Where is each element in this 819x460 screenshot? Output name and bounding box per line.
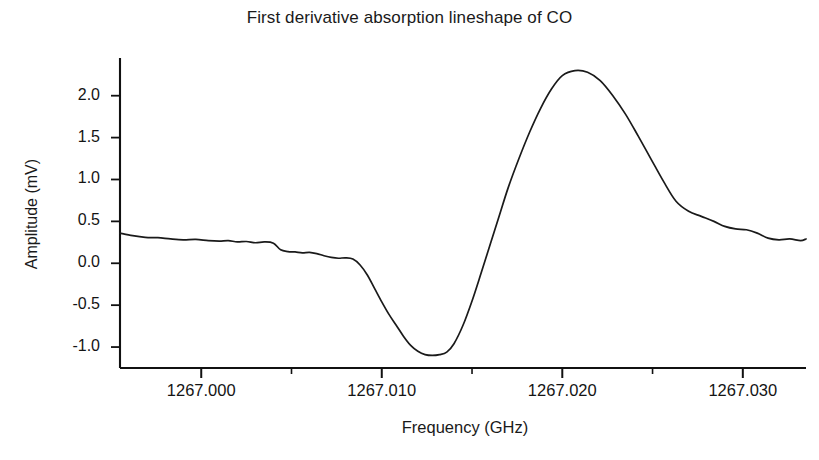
x-tick-label-group: 1267.0001267.0101267.0201267.030 — [0, 0, 819, 460]
x-tick-label: 1267.030 — [678, 381, 808, 400]
x-tick-label: 1267.020 — [497, 381, 627, 400]
x-tick-label: 1267.010 — [317, 381, 447, 400]
x-tick-label: 1267.000 — [136, 381, 266, 400]
figure-container: First derivative absorption lineshape of… — [0, 0, 819, 460]
